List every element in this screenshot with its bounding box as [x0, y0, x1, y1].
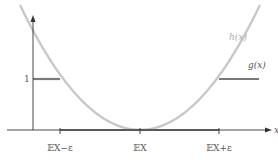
x-axis-label: x — [274, 125, 278, 135]
tick-label-ex: 𝔼X — [133, 143, 147, 153]
tick-label-ex-minus-eps: 𝔼X−ε — [47, 143, 73, 153]
diagram-canvas: 1 x h(x) g(x) 𝔼X−ε 𝔼X 𝔼X+ε — [0, 0, 278, 162]
y-one-label: 1 — [24, 74, 30, 84]
x-axis-arrow-icon — [265, 128, 272, 133]
h-curve-label: h(x) — [229, 32, 247, 42]
g-curve-label: g(x) — [248, 60, 266, 70]
h-curve — [20, 5, 260, 130]
tick-label-ex-plus-eps: 𝔼X+ε — [206, 143, 232, 153]
y-axis-arrow-icon — [31, 15, 36, 22]
